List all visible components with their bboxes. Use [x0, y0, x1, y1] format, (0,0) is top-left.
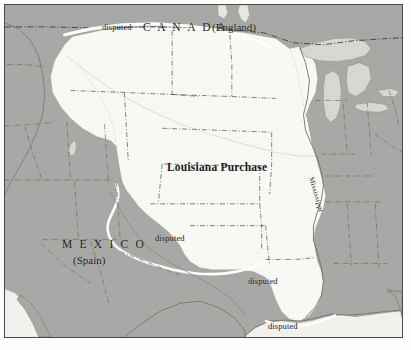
map-frame: C A N A D A (England) M E X I C O (Spain…	[4, 4, 403, 338]
map-graphic	[5, 5, 402, 337]
map-figure: C A N A D A (England) M E X I C O (Spain…	[0, 0, 411, 350]
